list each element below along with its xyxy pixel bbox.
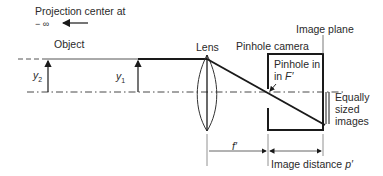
y2-label: y2 [33, 69, 42, 86]
minus-infinity-label: − ∞ [35, 18, 49, 30]
pinhole-in-label: Pinhole in [274, 58, 320, 70]
projection-center-label: Projection center at [35, 5, 125, 17]
pinhole-camera-label: Pinhole camera [236, 40, 309, 52]
f-prime-symbol: F′ [285, 70, 293, 82]
image-plane-label: Image plane [296, 23, 354, 35]
y1-subscript: 1 [121, 77, 125, 84]
lens-label: Lens [196, 41, 219, 53]
pinhole-location-label: in F′ [274, 70, 293, 82]
object-label: Object [54, 38, 84, 50]
p-prime-symbol: p′ [345, 158, 353, 170]
in-prefix: in [274, 70, 285, 82]
y1-label: y1 [116, 70, 125, 87]
sized-label: sized [335, 103, 360, 115]
image-distance-label: Image distance p′ [271, 158, 353, 170]
image-distance-text: Image distance [271, 158, 345, 170]
pinhole-pointer [270, 84, 276, 91]
y2-subscript: 2 [38, 76, 42, 83]
focal-length-label: f′ [232, 140, 237, 152]
equally-label: Equally [335, 91, 369, 103]
images-label: images [335, 115, 369, 127]
